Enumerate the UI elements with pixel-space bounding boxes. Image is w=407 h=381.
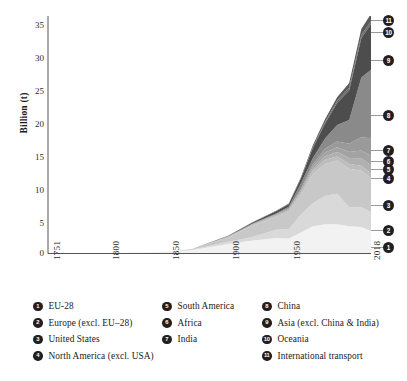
x-tick-1950: 1950 <box>292 241 302 260</box>
legend-badge-1: 1 <box>33 302 43 312</box>
legend-item-2[interactable]: 2Europe (excl. EU–28) <box>33 315 154 332</box>
end-marker-3: 3 <box>383 200 394 211</box>
legend-badge-8: 8 <box>262 302 272 312</box>
legend-label-1: EU-28 <box>49 301 74 311</box>
legend-badge-7: 7 <box>162 335 172 345</box>
legend-item-8[interactable]: 8China <box>262 298 379 315</box>
legend-label-3: United States <box>49 334 100 344</box>
legend-column-2: 5South America6Africa7India <box>162 298 234 348</box>
legend-label-10: Oceania <box>278 334 309 344</box>
legend-badge-2: 2 <box>33 318 43 328</box>
legend-item-11[interactable]: 11International transport <box>262 348 379 365</box>
leader-line-3 <box>371 205 383 206</box>
end-marker-9: 9 <box>383 55 394 66</box>
x-tick-1900: 1900 <box>231 241 241 260</box>
x-tick-1850: 1850 <box>171 241 181 260</box>
end-marker-8: 8 <box>383 110 394 121</box>
end-marker-2: 2 <box>383 225 394 236</box>
end-marker-11: 11 <box>383 15 394 26</box>
legend-item-9[interactable]: 9Asia (excl. China & India) <box>262 315 379 332</box>
leader-line-5 <box>371 169 383 170</box>
legend-label-9: Asia (excl. China & India) <box>278 318 379 328</box>
legend: 1EU-282Europe (excl. EU–28)3United State… <box>0 292 407 381</box>
co2-emissions-stacked-area-chart: Billion (t) 35 30 25 20 15 10 5 0 123456… <box>0 0 407 381</box>
legend-badge-5: 5 <box>162 302 172 312</box>
legend-badge-6: 6 <box>162 318 172 328</box>
x-tick-1751: 1751 <box>52 241 62 260</box>
legend-item-3[interactable]: 3United States <box>33 331 154 348</box>
legend-label-2: Europe (excl. EU–28) <box>49 318 133 328</box>
legend-badge-10: 10 <box>262 335 272 345</box>
legend-badge-9: 9 <box>262 318 272 328</box>
end-marker-7: 7 <box>383 145 394 156</box>
legend-item-4[interactable]: 4North America (excl. USA) <box>33 348 154 365</box>
legend-item-7[interactable]: 7India <box>162 331 234 348</box>
x-tick-2018: 2018 <box>372 241 382 260</box>
legend-label-11: International transport <box>278 351 363 361</box>
legend-badge-3: 3 <box>33 335 43 345</box>
leader-line-6 <box>371 161 383 162</box>
leader-line-4 <box>371 178 383 179</box>
legend-label-6: Africa <box>178 318 202 328</box>
legend-item-1[interactable]: 1EU-28 <box>33 298 154 315</box>
end-marker-6: 6 <box>383 156 394 167</box>
plot-area: Billion (t) 35 30 25 20 15 10 5 0 123456… <box>0 0 407 292</box>
legend-badge-11: 11 <box>262 351 272 361</box>
legend-column-3: 8China9Asia (excl. China & India)10Ocean… <box>262 298 379 364</box>
legend-item-6[interactable]: 6Africa <box>162 315 234 332</box>
leader-line-11 <box>371 20 383 21</box>
leader-line-2 <box>371 230 383 231</box>
leader-line-8 <box>371 115 383 116</box>
legend-item-5[interactable]: 5South America <box>162 298 234 315</box>
legend-label-7: India <box>178 334 198 344</box>
legend-column-1: 1EU-282Europe (excl. EU–28)3United State… <box>33 298 154 364</box>
legend-item-10[interactable]: 10Oceania <box>262 331 379 348</box>
legend-label-5: South America <box>178 301 235 311</box>
x-tick-1800: 1800 <box>111 241 121 260</box>
end-marker-10: 10 <box>383 27 394 38</box>
leader-line-7 <box>371 150 383 151</box>
legend-label-4: North America (excl. USA) <box>49 351 154 361</box>
leader-line-10 <box>371 32 383 33</box>
leader-line-9 <box>371 60 383 61</box>
legend-label-8: China <box>278 301 301 311</box>
legend-badge-4: 4 <box>33 351 43 361</box>
end-marker-1: 1 <box>383 242 394 253</box>
